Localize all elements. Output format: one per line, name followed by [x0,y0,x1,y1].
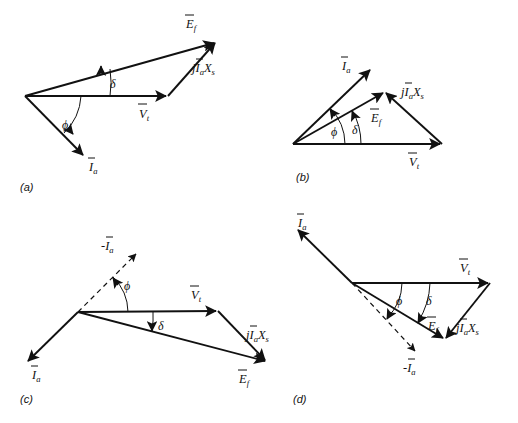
vector-ia-a [25,96,83,155]
panel-b: Vt Ef jIaXs Ia ϕ δ (b) [293,57,442,183]
label-vt-c: Vt [191,288,202,304]
label-ia-d: Ia [297,216,306,232]
label-minus-ia-c: -Ia [101,239,114,255]
phasor-figure: Vt Ef jIaXs Ia δ ϕ (a) [0,0,518,423]
label-minus-ia-d: -Ia [403,361,416,377]
label-vt-a: Vt [139,107,150,123]
label-jiaxs-c: jIaXs [244,328,270,344]
label-jiaxs-d: jIaXs [454,321,480,337]
label-ia-c: Ia [31,368,40,384]
angle-label-phi-d: ϕ [396,294,402,308]
panel-caption-c: (c) [20,393,33,405]
label-vt-b: Vt [409,155,420,171]
label-jiaxs-b: jIaXs [399,85,425,101]
vector-jiaxs-b [386,93,442,144]
vector-ia-d [298,230,352,283]
angle-label-phi-c: ϕ [124,279,130,293]
angle-label-delta-b: δ [352,123,358,137]
label-ef-b: Ef [370,111,383,127]
angle-label-delta-d: δ [426,294,432,308]
panel-d: Vt Ef jIaXs Ia -Ia ϕ δ (d) [293,214,490,405]
angle-label-phi-b: ϕ [331,125,337,139]
vector-ef-a [25,43,214,96]
panel-caption-a: (a) [20,181,34,193]
vector-minus-ia-d [352,283,415,351]
vector-ef-c [78,312,265,361]
label-jiaxs-a: jIaXs [190,61,216,77]
label-ef-d: Ef [427,319,440,335]
panel-caption-d: (d) [293,393,307,405]
angle-label-delta-a: δ [110,77,116,91]
label-ef-c: Ef [238,372,251,388]
angle-tick-phi-a [68,128,73,134]
label-ef-a: Ef [185,17,198,33]
vector-ia-c [28,312,78,361]
panel-a: Vt Ef jIaXs Ia δ ϕ (a) [20,15,216,193]
angle-label-delta-c: δ [158,319,164,333]
angle-tick-delta-d [418,316,422,323]
panel-c: Vt Ef jIaXs Ia -Ia ϕ δ (c) [20,237,270,405]
angle-label-phi-a: ϕ [62,118,68,132]
label-ia-b: Ia [341,59,350,75]
phasor-diagram-canvas: Vt Ef jIaXs Ia δ ϕ (a) [0,0,518,423]
vector-vt-c [78,311,216,312]
panel-caption-b: (b) [296,171,310,183]
label-vt-d: Vt [460,261,471,277]
label-ia-a: Ia [88,160,97,176]
angle-tick-phi-d [387,312,391,319]
